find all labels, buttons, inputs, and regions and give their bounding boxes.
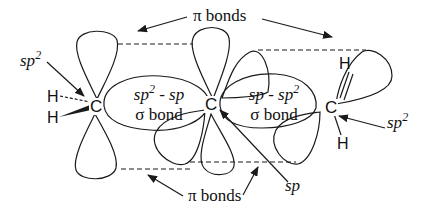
center-p-orbital-bottom-lobe [201,114,234,175]
label-sp2-right: sp2 [387,114,408,131]
label-sp2-left-base: sp [20,51,35,70]
label-sp2-right-sup: 2 [402,110,408,124]
atom-c-right: C [324,99,338,116]
label-sp2-left: sp2 [20,52,41,69]
atom-h-right-top: H [339,56,351,72]
atom-c-center: C [204,96,218,113]
left-p-orbital-bottom-lobe [75,114,116,179]
allene-orbital-diagram: C C C H H H H π bonds π bonds sp2 sp2 sp… [0,0,428,218]
label-sp-bottom: sp [285,177,300,194]
atom-c-left: C [89,98,103,115]
arrow-pi-bottom-right [243,167,258,195]
arrow-pi-top-right [262,19,332,37]
label-sigma-right-line1: sp - sp2 [232,86,316,103]
label-sp2-right-base: sp [387,113,402,132]
label-pi-bonds-bottom: π bonds [188,187,241,204]
arrow-sp2-right [339,116,385,128]
label-sigma-left-line2: σ bond [117,106,201,123]
label-sp2-left-sup: 2 [35,48,41,62]
right-c-h-top-bond-b [344,74,353,100]
arrow-pi-top-left [138,17,187,31]
label-sigma-right: sp - sp2 σ bond [232,86,316,123]
left-c-h-dashed-bond [60,96,90,102]
sigma-right-a: sp - sp [249,85,293,104]
sigma-right-sup: 2 [293,82,299,96]
atom-h-left-bottom: H [47,110,59,126]
label-pi-bonds-top: π bonds [193,7,246,24]
label-sigma-right-line2: σ bond [232,106,316,123]
label-sigma-left: sp2 - sp σ bond [117,86,201,123]
left-c-h-wedge-bond [59,105,91,117]
atom-h-left-top: H [47,89,59,105]
arrow-pi-bottom-left [148,175,183,196]
left-p-orbital-top-lobe [77,31,118,99]
label-sigma-left-line1: sp2 - sp [117,86,201,103]
right-c-h-bottom-bond [334,114,341,135]
atom-h-right-bottom: H [337,136,349,152]
sigma-left-b: - sp [155,85,184,104]
sigma-left-a: sp [134,85,149,104]
